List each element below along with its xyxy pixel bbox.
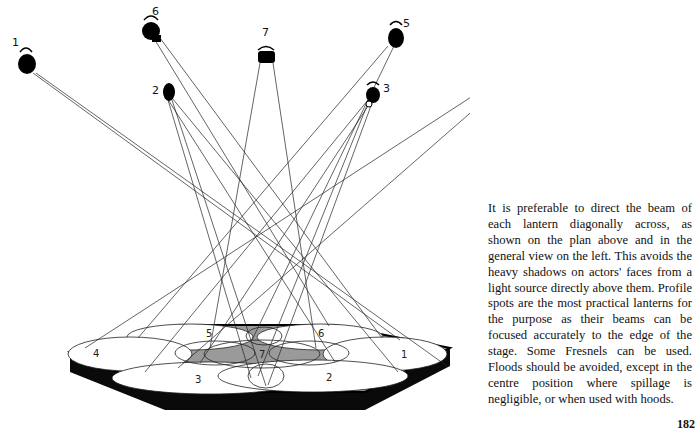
- lantern-label-7: 7: [262, 26, 269, 39]
- lantern-5-icon: [388, 22, 404, 49]
- lantern-label-3: 3: [383, 82, 390, 95]
- lantern-6-icon: [142, 16, 161, 42]
- zone-label-6: 6: [318, 328, 324, 339]
- zone-label-2: 2: [326, 372, 332, 383]
- page-number: 182: [677, 417, 695, 429]
- zone-label-5: 5: [206, 328, 212, 339]
- lantern-labels: 1 2 3 4 5 6 7: [12, 5, 470, 97]
- lantern-label-6: 6: [152, 5, 159, 18]
- lantern-label-2: 2: [152, 84, 159, 97]
- zone-label-7: 7: [259, 349, 265, 360]
- lantern-label-1: 1: [12, 36, 19, 49]
- zone-label-1: 1: [401, 349, 407, 360]
- lantern-label-5: 5: [403, 17, 410, 30]
- lantern-2-icon: [163, 83, 175, 101]
- stage-lighting-diagram: 1 2 3 4 5 6 7 1 2 3 4 5 6 7: [0, 0, 470, 429]
- lantern-7-icon: [258, 47, 275, 64]
- lantern-3-icon: [366, 82, 380, 107]
- zone-label-3: 3: [195, 374, 201, 385]
- lantern-1-icon: [18, 48, 36, 74]
- caption-text: It is preferable to direct the beam of e…: [488, 201, 692, 408]
- zone-label-4: 4: [93, 348, 99, 359]
